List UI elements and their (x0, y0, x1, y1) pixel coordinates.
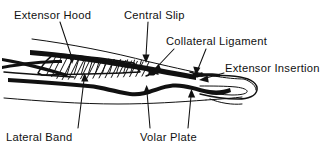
lateral-band-leader (78, 73, 88, 128)
label-volar-plate: Volar Plate (140, 131, 197, 143)
collateral-ligament-leader-2 (193, 49, 206, 75)
volar-plate-leader-1 (143, 85, 150, 128)
label-extensor-insertion: Extensor Insertion (225, 62, 320, 74)
diagram-canvas: Extensor Hood Central Slip Collateral Li… (0, 0, 335, 147)
label-extensor-hood: Extensor Hood (14, 9, 91, 21)
lateral-band-lines (2, 58, 74, 77)
label-collateral-ligament: Collateral Ligament (166, 35, 268, 47)
anatomical-figure: Extensor Hood Central Slip Collateral Li… (0, 0, 335, 147)
label-central-slip: Central Slip (124, 9, 185, 21)
volar-plate-leader-2 (188, 89, 195, 128)
label-lateral-band: Lateral Band (6, 131, 72, 143)
central-slip-leader (142, 22, 149, 63)
skin-outline-palmar (4, 97, 242, 104)
volar-plate-contour (8, 78, 231, 96)
